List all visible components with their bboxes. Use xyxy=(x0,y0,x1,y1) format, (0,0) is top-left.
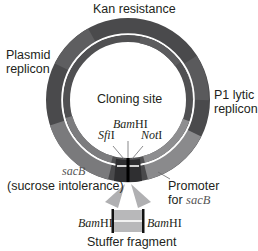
noti-site-label: NotI xyxy=(141,128,162,142)
stuffer-fragment-label: Stuffer fragment xyxy=(87,235,176,249)
not-roman: I xyxy=(158,128,162,142)
bamhi-right-italic: Bam xyxy=(147,216,169,230)
stuffer-fragment xyxy=(112,209,145,233)
p1-line2: replicon xyxy=(214,102,258,116)
promoter-line2: for sacB xyxy=(168,193,219,207)
p1-line1: P1 lytic xyxy=(214,88,258,102)
plasmid-line2: replicon xyxy=(6,62,50,76)
promoter-sacb: sacB xyxy=(186,193,210,207)
sfii-site-label: SfiI xyxy=(98,128,115,142)
bamhi-italic: Bam xyxy=(113,117,135,131)
cloning-site-label: Cloning site xyxy=(97,92,162,106)
promoter-for: for xyxy=(168,193,186,207)
bamhi-right-roman: HI xyxy=(169,216,182,230)
promoter-label: Promoter for sacB xyxy=(168,179,219,207)
promoter-line1: Promoter xyxy=(168,179,219,193)
p1-lytic-replicon-label: P1 lytic replicon xyxy=(214,88,258,116)
not-italic: Not xyxy=(141,128,158,142)
kan-resistance-label: Kan resistance xyxy=(93,2,176,16)
sucrose-intolerance-label: (sucrose intolerance) xyxy=(7,179,124,193)
plasmid-replicon-label: Plasmid replicon xyxy=(6,48,50,76)
bamhi-right-label: BamHI xyxy=(147,216,182,230)
bamhi-left-label: BamHI xyxy=(78,216,113,230)
bamhi-left-italic: Bam xyxy=(78,216,100,230)
sacb-label: sacB xyxy=(62,164,85,178)
plasmid-line1: Plasmid xyxy=(6,48,50,62)
sfi-roman: I xyxy=(111,128,115,142)
bamhi-left-roman: HI xyxy=(100,216,113,230)
sfi-italic: Sfi xyxy=(98,128,111,142)
